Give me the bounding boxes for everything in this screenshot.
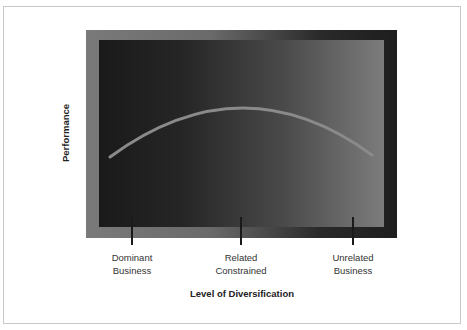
performance-curve xyxy=(0,0,467,330)
x-category-dominant: Dominant Business xyxy=(82,251,182,277)
tick-unrelated xyxy=(352,217,354,245)
tick-related xyxy=(240,217,242,245)
category-line: Dominant xyxy=(82,251,182,264)
x-category-related: Related Constrained xyxy=(191,251,291,277)
tick-dominant xyxy=(131,217,133,245)
category-line: Business xyxy=(82,264,182,277)
category-line: Business xyxy=(303,264,403,277)
category-line: Constrained xyxy=(191,264,291,277)
category-line: Unrelated xyxy=(303,251,403,264)
category-line: Related xyxy=(191,251,291,264)
x-axis-label: Level of Diversification xyxy=(0,288,467,299)
y-axis-label: Performance xyxy=(60,104,71,162)
x-category-unrelated: Unrelated Business xyxy=(303,251,403,277)
